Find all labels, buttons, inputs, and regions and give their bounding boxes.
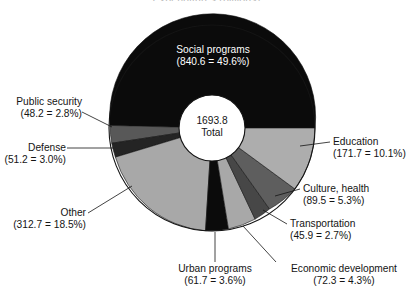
- slice-label-defense-value: (51.2 = 3.0%): [0, 154, 66, 166]
- slice-label-social-programs-value: (840.6 = 49.6%): [152, 56, 274, 68]
- slice-label-public-security: Public security (48.2 = 2.8%): [0, 96, 82, 120]
- slice-label-education-name: Education: [333, 136, 406, 148]
- leader-line-transportation: [263, 210, 287, 224]
- slice-label-other: Other (312.7 = 18.5%): [0, 207, 86, 231]
- slice-label-economic-development-name: Economic development: [279, 263, 409, 275]
- slice-label-public-security-name: Public security: [0, 96, 82, 108]
- slice-label-culture-health: Culture, health (89.5 = 5.3%): [303, 183, 369, 207]
- slice-label-transportation-name: Transportation: [290, 218, 355, 230]
- leader-line-other: [88, 186, 132, 213]
- slice-label-transportation: Transportation (45.9 = 2.7%): [290, 218, 355, 242]
- slice-label-urban-programs-name: Urban programs: [157, 263, 273, 275]
- leader-line-economic-development: [243, 226, 276, 262]
- slice-label-education-value: (171.7 = 10.1%): [333, 148, 406, 160]
- slice-label-culture-health-name: Culture, health: [303, 183, 369, 195]
- slice-label-transportation-value: (45.9 = 2.7%): [290, 230, 355, 242]
- slice-label-other-value: (312.7 = 18.5%): [0, 219, 86, 231]
- slice-label-education: Education (171.7 = 10.1%): [333, 136, 406, 160]
- slice-label-social-programs-name: Social programs: [152, 44, 274, 56]
- slice-label-public-security-value: (48.2 = 2.8%): [0, 108, 82, 120]
- leader-line-public-security: [82, 112, 112, 127]
- slice-label-defense: Defense (51.2 = 3.0%): [0, 142, 66, 166]
- slice-label-social-programs: Social programs (840.6 = 49.6%): [152, 44, 274, 68]
- slice-label-other-name: Other: [0, 207, 86, 219]
- slice-label-defense-name: Defense: [0, 142, 66, 154]
- donut-center-label: 1693.8 Total: [182, 115, 242, 140]
- total-value: 1693.8: [196, 115, 227, 126]
- slice-label-economic-development-value: (72.3 = 4.3%): [279, 275, 409, 287]
- slice-label-economic-development: Economic development (72.3 = 4.3%): [279, 263, 409, 287]
- pie-chart-figure: Expenditures (billions): [0, 0, 413, 301]
- total-caption: Total: [201, 127, 223, 138]
- slice-label-urban-programs: Urban programs (61.7 = 3.6%): [157, 263, 273, 287]
- slice-label-urban-programs-value: (61.7 = 3.6%): [157, 275, 273, 287]
- slice-label-culture-health-value: (89.5 = 5.3%): [303, 195, 369, 207]
